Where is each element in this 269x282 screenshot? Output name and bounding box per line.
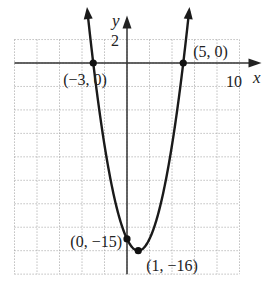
curve-right-arrow-icon [184, 7, 193, 19]
x-axis-label: x [252, 68, 261, 87]
x-axis-arrow-icon [249, 59, 262, 68]
y-axis-arrow-icon [123, 16, 132, 29]
parabola-curve [87, 11, 189, 251]
y-axis-label: y [110, 11, 120, 30]
point-marker [135, 247, 142, 254]
point-label: (0, −15) [70, 233, 122, 251]
labeled-points: (−3, 0)(5, 0)(0, −15)(1, −16) [63, 7, 228, 275]
point-label: (5, 0) [193, 43, 228, 61]
curve-left-arrow-icon [84, 7, 93, 19]
y-tick-label: 2 [111, 32, 119, 49]
point-label: (1, −16) [146, 257, 198, 275]
point-marker [123, 235, 130, 242]
point-marker [90, 59, 97, 66]
x-tick-label: 10 [226, 73, 242, 90]
parabola-chart: (−3, 0)(5, 0)(0, −15)(1, −16) x y 10 2 [0, 0, 269, 282]
point-marker [180, 59, 187, 66]
point-label: (−3, 0) [63, 71, 107, 89]
